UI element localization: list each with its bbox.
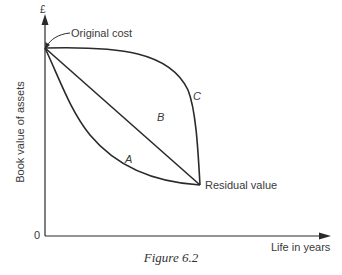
curve-b-label: B <box>157 111 164 123</box>
original-cost-label: Original cost <box>71 27 132 39</box>
curve-a-label: A <box>125 153 132 165</box>
origin-label: 0 <box>34 229 40 241</box>
curve-b <box>45 48 200 185</box>
residual-value-label: Residual value <box>205 179 277 191</box>
x-axis-arrow-icon <box>319 233 331 240</box>
y-axis-label: Book value of assets <box>14 72 26 192</box>
figure-caption: Figure 6.2 <box>0 250 342 266</box>
y-axis-unit: £ <box>40 4 46 15</box>
original-cost-pointer <box>47 33 70 46</box>
depreciation-diagram <box>0 0 342 275</box>
y-axis-arrow-icon <box>42 14 49 25</box>
curve-c-label: C <box>193 90 201 102</box>
